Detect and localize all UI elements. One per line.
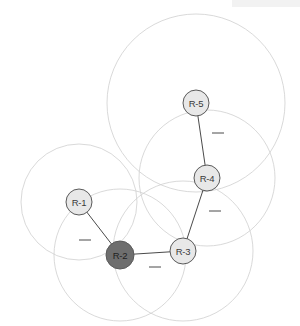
links-layer — [79, 103, 207, 255]
nodes-layer: R-1R-2R-3R-4R-5 — [66, 90, 220, 269]
node-r-1[interactable]: R-1 — [66, 189, 92, 215]
network-diagram-svg: R-1R-2R-3R-4R-5 — [0, 0, 300, 326]
diagram-canvas: R-1R-2R-3R-4R-5 — [0, 0, 300, 326]
node-label-r-5: R-5 — [189, 98, 204, 109]
node-label-r-3: R-3 — [176, 246, 191, 257]
node-r-2[interactable]: R-2 — [106, 241, 134, 269]
header-band — [232, 0, 300, 7]
node-label-r-2: R-2 — [113, 250, 128, 261]
node-r-5[interactable]: R-5 — [183, 90, 209, 116]
link-marks-layer — [79, 133, 224, 267]
node-label-r-1: R-1 — [72, 197, 87, 208]
node-r-3[interactable]: R-3 — [170, 238, 196, 264]
coverage-circles-layer — [21, 14, 285, 321]
node-r-4[interactable]: R-4 — [194, 165, 220, 191]
node-label-r-4: R-4 — [200, 173, 215, 184]
